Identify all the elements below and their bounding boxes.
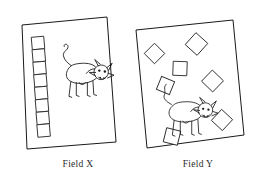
- field-x-group: Field X: [22, 17, 116, 169]
- field-y-square-7: [163, 128, 181, 146]
- cow-eye-left: [98, 69, 100, 71]
- field-x-square-6: [35, 99, 49, 113]
- field-x-square-2: [32, 49, 46, 63]
- figure-container: Field X: [0, 0, 253, 179]
- cow-eye-left: [202, 108, 204, 110]
- field-y-label: Field Y: [183, 159, 214, 169]
- cow-nostril-right: [207, 115, 208, 116]
- field-x-square-1: [31, 36, 45, 50]
- field-y-group: Field Y: [136, 20, 244, 169]
- cow-eye-right: [207, 109, 209, 111]
- cow-nostril-left: [100, 77, 101, 78]
- field-x-square-7: [36, 111, 50, 125]
- field-x-label: Field X: [63, 159, 94, 169]
- cow-head-outline: [198, 103, 213, 118]
- cow-head-outline: [94, 65, 108, 80]
- fields-comparison-diagram: Field X: [0, 0, 253, 179]
- field-x-square-5: [34, 86, 48, 100]
- field-x-square-8: [37, 124, 51, 138]
- cow-body-outline: [66, 63, 98, 83]
- cow-nostril-right: [103, 77, 104, 78]
- field-x-square-4: [34, 74, 48, 88]
- cow-nostril-left: [203, 115, 204, 116]
- field-x-square-3: [33, 61, 47, 75]
- field-y-square-3: [173, 61, 187, 75]
- cow-eye-right: [104, 70, 106, 72]
